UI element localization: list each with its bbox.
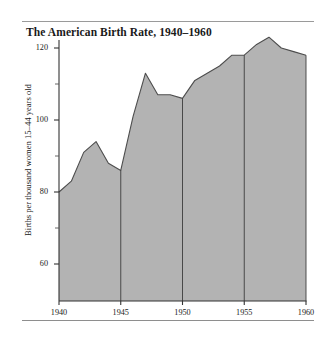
y-tick-label-120: 120 — [26, 43, 48, 52]
x-tick-label-1960: 1960 — [288, 308, 324, 317]
area-chart-svg — [0, 0, 332, 337]
x-tick-label-1950: 1950 — [165, 308, 201, 317]
x-tick-label-1940: 1940 — [41, 308, 77, 317]
x-tick-label-1945: 1945 — [103, 308, 139, 317]
y-tick-label-60: 60 — [26, 259, 48, 268]
plot-area: Births per thousand women 15–44 years ol… — [0, 0, 332, 337]
y-tick-label-80: 80 — [26, 187, 48, 196]
bottom-divider-rule — [22, 320, 314, 321]
y-axis-title: Births per thousand women 15–44 years ol… — [23, 70, 33, 250]
x-tick-label-1955: 1955 — [226, 308, 262, 317]
birth-rate-figure: The American Birth Rate, 1940–1960 Birth… — [0, 0, 332, 337]
y-tick-label-100: 100 — [26, 115, 48, 124]
